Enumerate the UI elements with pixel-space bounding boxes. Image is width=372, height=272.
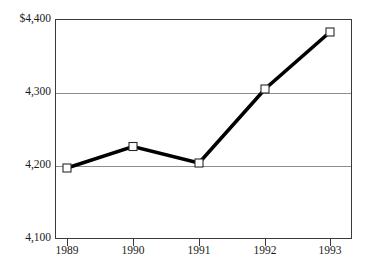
line-chart: $4,400 4,300 4,200 4,100 1989 1990 1991 … [0,0,372,272]
y-tick-label-4300: 4,300 [1,86,51,98]
plot-area [55,19,352,239]
y-axis-labels: $4,400 4,300 4,200 4,100 [0,0,51,272]
y-tick-label-4200: 4,200 [1,159,51,171]
x-tick-label-1990: 1990 [103,244,163,256]
x-tick-label-1989: 1989 [37,244,97,256]
x-tick-label-1993: 1993 [300,244,360,256]
y-tick-label-4400: $4,400 [1,13,51,25]
gridline-4200 [56,166,351,167]
x-tick-label-1992: 1992 [235,244,295,256]
gridline-4300 [56,93,351,94]
y-tick-label-4100: 4,100 [1,232,51,244]
x-tick-label-1991: 1991 [169,244,229,256]
